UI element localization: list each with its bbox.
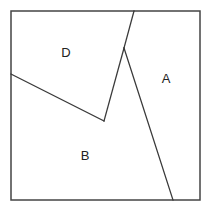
d-b-boundary-bottom (11, 74, 104, 121)
region-label-b: B (81, 148, 90, 163)
d-a-boundary-top (124, 11, 134, 48)
region-label-a: A (162, 71, 171, 86)
region-label-d: D (61, 45, 70, 60)
d-b-boundary-right (104, 48, 124, 121)
square-frame (11, 11, 200, 200)
partition-diagram: D A B (0, 0, 211, 212)
